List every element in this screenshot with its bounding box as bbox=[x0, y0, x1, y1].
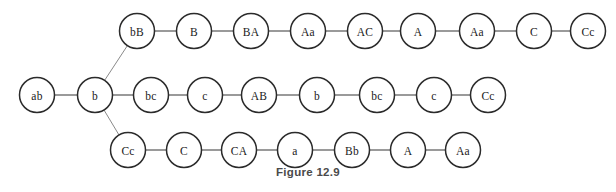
node-label: Aa bbox=[301, 26, 315, 38]
graph-node: BA bbox=[234, 14, 269, 49]
graph-node: A bbox=[391, 133, 426, 168]
graph-node: CA bbox=[222, 133, 257, 168]
node-label: A bbox=[414, 26, 423, 38]
graph-node: Aa bbox=[291, 14, 326, 49]
node-label: AC bbox=[357, 26, 374, 38]
graph-node: AB bbox=[242, 78, 277, 113]
node-label: b bbox=[314, 90, 320, 102]
node-label: Aa bbox=[470, 26, 484, 38]
graph-node: Cc bbox=[111, 133, 146, 168]
graph-node: Aa bbox=[446, 133, 481, 168]
node-label: c bbox=[202, 90, 207, 102]
node-label: B bbox=[190, 26, 198, 38]
graph-node: Aa bbox=[460, 14, 495, 49]
node-label: c bbox=[431, 90, 436, 102]
node-label: C bbox=[530, 26, 538, 38]
node-label: CA bbox=[231, 145, 248, 157]
graph-node: Cc bbox=[471, 78, 506, 113]
node-label: a bbox=[292, 145, 297, 157]
node-label: Aa bbox=[456, 145, 470, 157]
node-label: bc bbox=[371, 90, 382, 102]
node-label: b bbox=[92, 90, 98, 102]
graph-node: AC bbox=[348, 14, 383, 49]
node-label: A bbox=[404, 145, 413, 157]
node-label: Cc bbox=[121, 145, 134, 157]
graph-node: C bbox=[517, 14, 552, 49]
node-label: AB bbox=[251, 90, 268, 102]
node-label: Cc bbox=[481, 90, 494, 102]
graph-node: Bb bbox=[335, 133, 370, 168]
graph-node: bc bbox=[360, 78, 395, 113]
graph-edge bbox=[105, 46, 128, 81]
node-label: ab bbox=[31, 90, 42, 102]
graph-node: b bbox=[300, 78, 335, 113]
graph-node: c bbox=[417, 78, 452, 113]
node-label: BA bbox=[243, 26, 260, 38]
graph-node: B bbox=[177, 14, 212, 49]
graph-node: Cc bbox=[571, 14, 606, 49]
figure-caption: Figure 12.9 bbox=[0, 166, 616, 178]
graph-node: bB bbox=[120, 14, 155, 49]
node-label: bB bbox=[130, 26, 144, 38]
graph-diagram: abbbBBBAAaACAAaCCcbccABbbccCcCcCCAaBbAAa bbox=[0, 0, 616, 192]
graph-node: C bbox=[167, 133, 202, 168]
graph-node: b bbox=[78, 78, 113, 113]
figure-container: abbbBBBAAaACAAaCCcbccABbbccCcCcCCAaBbAAa… bbox=[0, 0, 616, 192]
node-label: C bbox=[180, 145, 188, 157]
graph-node: a bbox=[278, 133, 313, 168]
graph-node: bc bbox=[134, 78, 169, 113]
graph-node: A bbox=[401, 14, 436, 49]
node-label: bc bbox=[145, 90, 156, 102]
graph-node: ab bbox=[20, 78, 55, 113]
node-label: Cc bbox=[581, 26, 594, 38]
graph-node: c bbox=[188, 78, 223, 113]
nodes-layer: abbbBBBAAaACAAaCCcbccABbbccCcCcCCAaBbAAa bbox=[20, 14, 606, 168]
node-label: Bb bbox=[345, 145, 359, 157]
graph-edge bbox=[104, 110, 119, 135]
